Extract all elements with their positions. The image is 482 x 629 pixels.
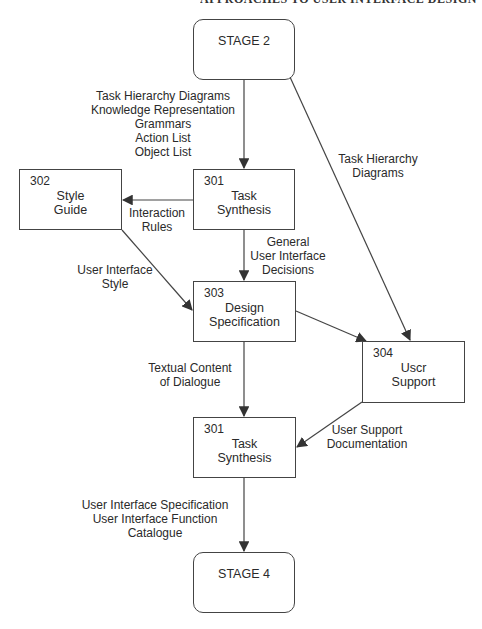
label-line: Task Hierarchy <box>328 152 428 166</box>
node-title-line2: Synthesis <box>194 203 294 217</box>
label-303-to-301b: Textual Content of Dialogue <box>140 361 240 389</box>
node-301-task-synthesis-bottom: 301 Task Synthesis <box>193 417 296 478</box>
label-304-to-301b: User Support Documentation <box>322 423 412 451</box>
label-line: User Interface Specification <box>70 498 240 512</box>
node-title-line2: Support <box>363 375 464 389</box>
label-301-to-302: Interaction Rules <box>124 206 190 234</box>
label-stage2-to-301: Task Hierarchy Diagrams Knowledge Repres… <box>88 89 238 159</box>
label-line: of Dialogue <box>140 375 240 389</box>
node-number: 301 <box>204 422 224 436</box>
label-line: General <box>246 235 330 249</box>
node-number: 301 <box>204 174 224 188</box>
label-line: Rules <box>124 220 190 234</box>
node-title-line1: Design <box>194 301 295 315</box>
node-number: 302 <box>30 174 50 188</box>
label-line: Knowledge Representation <box>88 103 238 117</box>
node-title-line1: Uscr <box>363 361 464 375</box>
node-title-line2: Synthesis <box>194 451 295 465</box>
label-302-to-303: User Interface Style <box>70 263 160 291</box>
node-title-line2: Guide <box>20 203 121 217</box>
node-301-task-synthesis-top: 301 Task Synthesis <box>193 169 295 230</box>
node-304-user-support: 304 Uscr Support <box>362 341 465 403</box>
node-title-line1: Style <box>20 189 121 203</box>
node-title: STAGE 4 <box>194 567 294 581</box>
label-301b-to-stage4: User Interface Specification User Interf… <box>70 498 240 540</box>
node-stage-4: STAGE 4 <box>193 552 295 613</box>
label-line: Action List <box>88 131 238 145</box>
node-title-line1: Task <box>194 437 295 451</box>
node-title-line1: Task <box>194 189 294 203</box>
edge-303-to-304 <box>296 311 366 341</box>
node-number: 303 <box>204 286 224 300</box>
node-title-line2: Specification <box>194 315 295 329</box>
label-301-to-303: General User Interface Decisions <box>246 235 330 277</box>
label-line: User Interface <box>70 263 160 277</box>
label-line: Decisions <box>246 263 330 277</box>
label-line: Catalogue <box>70 526 240 540</box>
edge-stage2-to-304 <box>290 77 410 340</box>
label-stage2-to-304: Task Hierarchy Diagrams <box>328 152 428 180</box>
label-line: User Interface <box>246 249 330 263</box>
label-line: Interaction <box>124 206 190 220</box>
node-title: STAGE 2 <box>194 34 294 48</box>
label-line: Task Hierarchy Diagrams <box>88 89 238 103</box>
label-line: Object List <box>88 145 238 159</box>
node-number: 304 <box>373 346 393 360</box>
label-line: Grammars <box>88 117 238 131</box>
label-line: User Interface Function <box>70 512 240 526</box>
label-line: Style <box>70 277 160 291</box>
label-line: Textual Content <box>140 361 240 375</box>
node-303-design-specification: 303 Design Specification <box>193 281 296 342</box>
node-stage-2: STAGE 2 <box>193 19 295 80</box>
label-line: User Support <box>322 423 412 437</box>
label-line: Diagrams <box>328 166 428 180</box>
label-line: Documentation <box>322 437 412 451</box>
node-302-style-guide: 302 Style Guide <box>19 169 122 230</box>
